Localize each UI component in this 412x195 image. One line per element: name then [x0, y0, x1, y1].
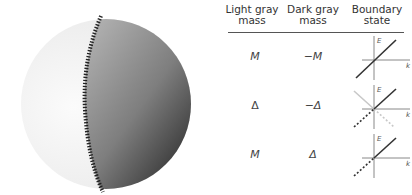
header-light-gray-mass: Light gray mass [220, 4, 284, 26]
k-axis-label: k [406, 111, 411, 119]
chiral-mode-dashed [354, 109, 374, 127]
counter-mode-solid [354, 91, 374, 109]
row3-light-mass: M [230, 148, 280, 161]
row3-dark-mass: Δ [288, 148, 338, 161]
majorana-mode-dashed [354, 158, 374, 176]
header-boundary-state: Boundary state [344, 4, 410, 26]
k-axis-label: k [406, 160, 411, 168]
row1-dark-mass: −M [288, 50, 338, 63]
sphere-illustration [0, 0, 210, 195]
header-text: state [344, 15, 410, 26]
header-rule [228, 32, 404, 33]
header-text: mass [220, 15, 284, 26]
sphere-svg [0, 0, 210, 195]
header-text: mass [280, 15, 346, 26]
row3-boundary-plot: E k [350, 132, 412, 180]
e-axis-label: E [377, 135, 382, 143]
row2-light-mass: Δ [230, 99, 280, 112]
mass-boundary-table: Light gray mass Dark gray mass Boundary … [220, 0, 412, 195]
row2-dark-mass: −Δ [288, 99, 338, 112]
k-axis-label: k [406, 62, 411, 70]
row1-light-mass: M [230, 50, 280, 63]
header-dark-gray-mass: Dark gray mass [280, 4, 346, 26]
dark-gray-region [85, 0, 210, 195]
chiral-mode-line [356, 40, 396, 78]
e-axis-label: E [377, 37, 382, 45]
e-axis-label: E [377, 86, 382, 94]
counter-mode-dashed [374, 109, 394, 127]
row2-boundary-plot: E k [350, 83, 412, 131]
row1-boundary-plot: E k [350, 34, 412, 82]
